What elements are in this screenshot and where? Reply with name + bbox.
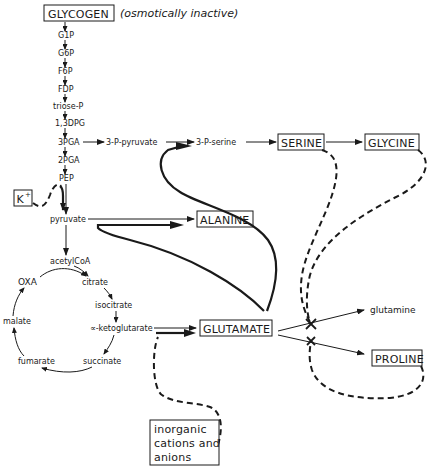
- osmotic-annotation: (osmotically inactive): [120, 7, 238, 20]
- f6p-label: F6P: [58, 67, 73, 76]
- citrate-label: citrate: [82, 278, 108, 287]
- svg-text:SERINE: SERINE: [281, 137, 322, 150]
- pep-label: PEP: [59, 174, 74, 183]
- isocitrate-label: isocitrate: [95, 301, 132, 310]
- glycolysis-chain: G1P G6P F6P FDP triose-P 1,3DPG 3PGA 2PG…: [50, 22, 86, 224]
- potassium-node: K +: [14, 190, 32, 206]
- acetylcoa-label: acetylCoA: [50, 257, 91, 266]
- serine-node: SERINE: [278, 134, 324, 150]
- tca-cycle: OXA citrate isocitrate ∝-ketoglutarate s…: [3, 266, 153, 372]
- fdp-label: FDP: [58, 85, 74, 94]
- 3-p-pyruvate-label: 3-P-pyruvate: [106, 138, 157, 147]
- triose-p-label: triose-P: [53, 102, 84, 111]
- metabolic-pathway-diagram: GLYCOGEN (osmotically inactive) G1P G6P …: [0, 0, 437, 469]
- glutamine-label: glutamine: [370, 305, 416, 315]
- glycine-node: GLYCINE: [365, 134, 419, 150]
- glutamate-node: GLUTAMATE: [200, 320, 272, 336]
- glycine-feedback-dash: [307, 150, 426, 324]
- alanine-node: ALANINE: [197, 211, 253, 227]
- svg-text:PROLINE: PROLINE: [375, 353, 424, 366]
- g1p-label: G1P: [58, 31, 74, 40]
- succinate-label: succinate: [83, 357, 121, 366]
- inorganic-ions-node: inorganic cations and anions: [150, 420, 220, 465]
- 13dpg-label: 1,3DPG: [55, 119, 85, 128]
- svg-text:anions: anions: [154, 451, 191, 464]
- 2pga-label: 2PGA: [58, 156, 80, 165]
- pyruvate-label: pyruvate: [50, 215, 86, 224]
- glycogen-node: GLYCOGEN: [44, 5, 114, 21]
- 3pga-label: 3PGA: [58, 138, 80, 147]
- malate-label: malate: [3, 317, 31, 326]
- oxa-label: OXA: [18, 277, 38, 287]
- alpha-ketoglutarate-label: ∝-ketoglutarate: [90, 324, 153, 333]
- 3-p-serine-label: 3-P-serine: [196, 138, 236, 147]
- svg-text:GLYCOGEN: GLYCOGEN: [48, 8, 109, 21]
- fumarate-label: fumarate: [18, 357, 55, 366]
- proline-node: PROLINE: [372, 350, 424, 366]
- svg-text:inorganic: inorganic: [154, 423, 207, 436]
- svg-text:GLYCINE: GLYCINE: [368, 137, 415, 150]
- svg-text:+: +: [25, 191, 31, 199]
- svg-text:K: K: [17, 193, 25, 206]
- svg-text:cations and: cations and: [154, 437, 220, 450]
- g6p-label: G6P: [58, 49, 74, 58]
- svg-text:GLUTAMATE: GLUTAMATE: [203, 323, 270, 336]
